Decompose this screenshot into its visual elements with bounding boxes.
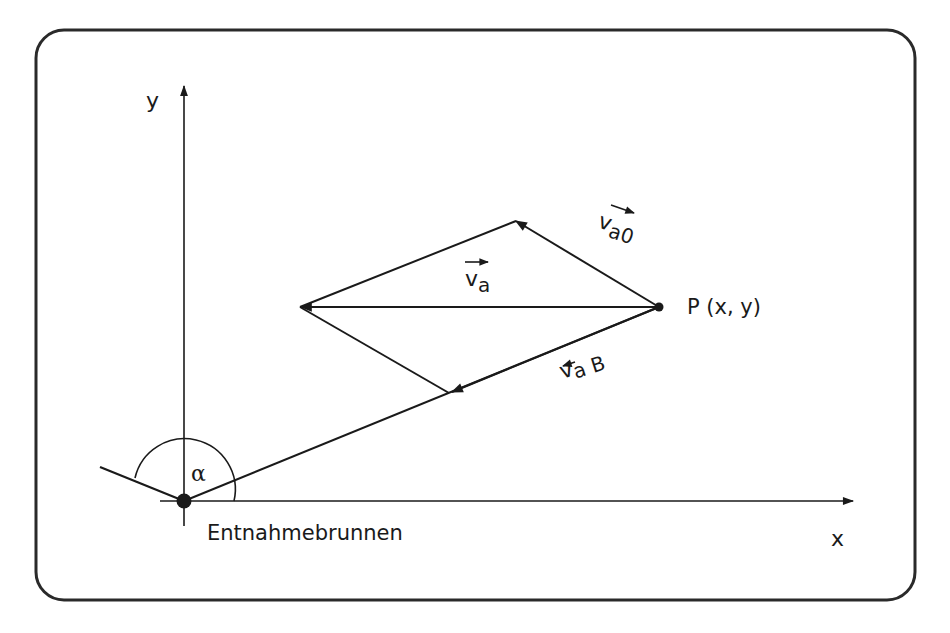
- vector-va-label: va: [465, 266, 490, 291]
- x-axis-label: x: [831, 526, 844, 551]
- vector-va-base: v: [465, 266, 478, 291]
- well-point: [177, 494, 192, 509]
- point-p: [655, 303, 664, 312]
- diagram-frame: [36, 30, 915, 600]
- parallelogram-bottom-side: [300, 307, 449, 393]
- point-p-label: P (x, y): [687, 295, 761, 319]
- angle-arc: [135, 439, 235, 501]
- origin-label: Entnahmebrunnen: [207, 521, 403, 545]
- y-axis-label: y: [146, 88, 159, 113]
- vector-va0: [516, 221, 659, 307]
- angle-label: α: [191, 461, 206, 486]
- vector-diagram: [0, 0, 950, 633]
- reference-line: [100, 467, 184, 501]
- vector-vaB: [452, 307, 659, 392]
- vector-va-sub: a: [478, 273, 490, 297]
